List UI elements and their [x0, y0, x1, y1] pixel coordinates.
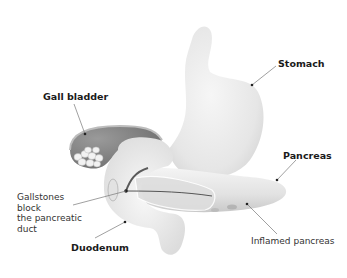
- label-duodenum: Duodenum: [71, 242, 129, 253]
- diagram-canvas: Stomach Gall bladder Pancreas Gallstones…: [0, 0, 347, 278]
- label-inflamed-pancreas: Inflamed pancreas: [251, 236, 335, 247]
- label-gallstones-line2: block: [17, 203, 82, 214]
- label-gallstones-line1: Gallstones: [17, 192, 82, 203]
- label-gallstones-line3: the pancreatic: [17, 213, 82, 224]
- label-gallstones-block: Gallstones block the pancreatic duct: [17, 192, 82, 234]
- label-pancreas: Pancreas: [283, 150, 332, 161]
- label-gallstones-line4: duct: [17, 224, 82, 235]
- label-stomach: Stomach: [278, 58, 325, 69]
- stomach-shape: [168, 26, 264, 178]
- label-gall-bladder: Gall bladder: [43, 91, 108, 102]
